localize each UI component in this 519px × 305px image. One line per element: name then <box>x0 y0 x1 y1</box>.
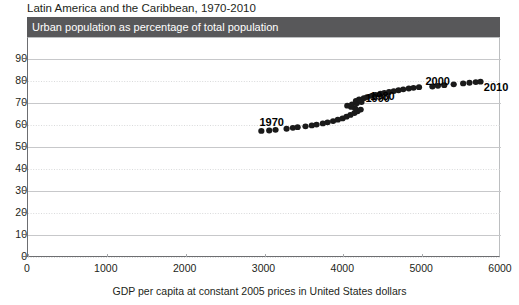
scatter-plot-svg <box>28 38 501 258</box>
year-annotation: 1990 <box>366 93 390 104</box>
x-tick-label: 4000 <box>331 263 354 274</box>
page-title: Latin America and the Caribbean, 1970-20… <box>27 1 256 15</box>
subtitle-banner: Urban population as percentage of total … <box>27 17 500 37</box>
x-tick-label: 2000 <box>173 263 196 274</box>
x-axis-label: GDP per capita at constant 2005 prices i… <box>0 285 519 297</box>
x-tick-label: 1000 <box>94 263 117 274</box>
subtitle-text: Urban population as percentage of total … <box>32 20 278 34</box>
plot-area <box>27 37 500 257</box>
year-annotation: 1970 <box>260 117 284 128</box>
x-tick-label: 3000 <box>252 263 275 274</box>
x-tick-label: 5000 <box>410 263 433 274</box>
year-annotation: 2000 <box>425 76 449 87</box>
y-axis-ticks <box>22 0 28 305</box>
figure-container: Latin America and the Caribbean, 1970-20… <box>0 0 519 305</box>
year-annotation: 2010 <box>484 82 508 93</box>
x-tick-label: 6000 <box>488 263 511 274</box>
